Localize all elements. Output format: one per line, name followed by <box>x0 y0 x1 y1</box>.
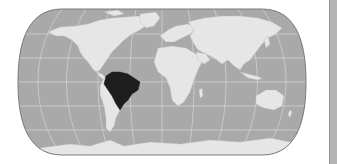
right-edge-bar <box>329 0 337 164</box>
